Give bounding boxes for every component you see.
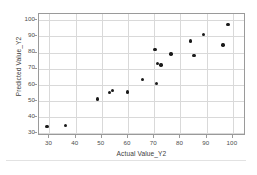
data-point — [111, 89, 114, 92]
y-axis-tickmark — [34, 116, 37, 117]
gridline-vertical — [76, 14, 77, 134]
gridline-horizontal — [39, 85, 244, 86]
gridline-vertical — [233, 14, 234, 134]
gridline-horizontal — [39, 53, 244, 54]
y-axis-tickmark — [34, 100, 37, 101]
data-point — [169, 52, 172, 55]
x-axis-tick-labels: 30405060708090100 — [0, 140, 257, 150]
gridline-horizontal — [39, 133, 244, 134]
x-axis-tickmark — [75, 135, 76, 138]
x-axis-tickmark — [48, 135, 49, 138]
x-axis-tickmark — [127, 135, 128, 138]
y-axis-tickmark — [34, 84, 37, 85]
data-point — [155, 82, 158, 85]
x-axis-title: Actual Value_Y2 — [38, 150, 245, 157]
data-point — [64, 124, 67, 127]
gridline-horizontal — [39, 117, 244, 118]
y-axis-tickmark — [34, 35, 37, 36]
gridline-vertical — [128, 14, 129, 134]
y-axis-tickmark — [34, 132, 37, 133]
data-point — [45, 125, 48, 128]
footer-divider — [6, 160, 246, 161]
x-axis-tickmark — [232, 135, 233, 138]
y-axis-tick-label: 30 — [5, 129, 35, 135]
gridline-horizontal — [39, 101, 244, 102]
gridline-horizontal — [39, 69, 244, 70]
data-point — [153, 48, 156, 51]
gridline-vertical — [49, 14, 50, 134]
gridline-horizontal — [39, 36, 244, 37]
gridline-vertical — [102, 14, 103, 134]
data-point — [96, 97, 99, 100]
x-axis-tickmark — [153, 135, 154, 138]
y-axis-title: Predicted Value_Y2 — [15, 6, 22, 128]
gridline-vertical — [207, 14, 208, 134]
x-axis-tickmark — [101, 135, 102, 138]
data-point — [189, 39, 192, 42]
data-point — [159, 63, 162, 66]
data-point — [221, 43, 224, 46]
x-axis-tick-label: 100 — [217, 140, 247, 146]
data-point — [226, 23, 229, 26]
y-axis-tickmark — [34, 19, 37, 20]
gridline-vertical — [154, 14, 155, 134]
gridline-horizontal — [39, 20, 244, 21]
y-axis-tickmark — [34, 52, 37, 53]
y-axis-tickmark — [34, 68, 37, 69]
x-axis-tickmark — [206, 135, 207, 138]
gridline-vertical — [180, 14, 181, 134]
data-point — [192, 54, 195, 57]
plot-area — [38, 13, 245, 135]
data-point — [141, 78, 144, 81]
scatter-chart: 30405060708090100 30405060708090100 Actu… — [0, 0, 257, 175]
x-axis-tickmark — [179, 135, 180, 138]
